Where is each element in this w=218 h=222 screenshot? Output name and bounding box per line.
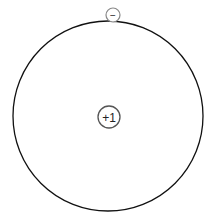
bohr-model-diagram: +1 −	[0, 0, 218, 222]
nucleus-charge-label: +1	[102, 111, 116, 125]
nucleus: +1	[98, 106, 120, 128]
electron-charge-label: −	[110, 10, 116, 21]
electron: −	[106, 8, 120, 22]
